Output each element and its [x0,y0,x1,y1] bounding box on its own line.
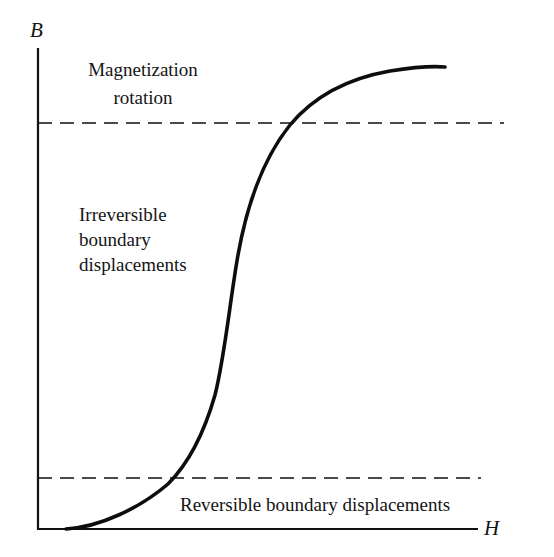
region-label-line: Irreversible [79,203,187,226]
magnetization-curve [66,67,445,529]
y-axis-label: B [30,18,43,43]
region-label-irreversible: Irreversible boundary displacements [79,203,187,276]
region-label-line: rotation [78,86,208,109]
region-label-line: displacements [79,253,187,276]
region-label-line: boundary [79,228,187,251]
x-axis-label: H [484,516,499,541]
region-label-reversible: Reversible boundary displacements [180,493,450,516]
region-label-magnetization-rotation: Magnetization rotation [78,58,208,109]
region-label-line: Magnetization [78,58,208,81]
